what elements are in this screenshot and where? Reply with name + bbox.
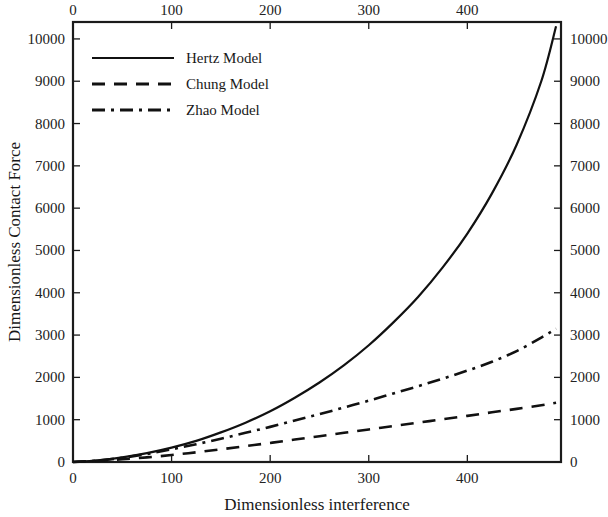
y-tick-label-right: 8000 xyxy=(570,116,600,132)
line-chart: 0100200300400010020030040001000200030004… xyxy=(0,0,608,517)
y-axis-title: Dimensionless Contact Force xyxy=(5,142,24,342)
chart-figure: 0100200300400010020030040001000200030004… xyxy=(0,0,608,517)
y-tick-label-left: 9000 xyxy=(35,73,65,89)
y-tick-label-right: 2000 xyxy=(570,369,600,385)
x-tick-label-bottom: 0 xyxy=(69,470,77,486)
x-tick-label-bottom: 400 xyxy=(456,470,479,486)
y-tick-label-left: 2000 xyxy=(35,369,65,385)
y-tick-label-left: 3000 xyxy=(35,327,65,343)
y-tick-label-left: 8000 xyxy=(35,116,65,132)
legend-label-chung-model: Chung Model xyxy=(186,76,269,92)
y-tick-label-left: 1000 xyxy=(35,412,65,428)
legend-label-zhao-model: Zhao Model xyxy=(186,102,260,118)
y-tick-label-right: 9000 xyxy=(570,73,600,89)
x-tick-label-bottom: 300 xyxy=(358,470,381,486)
plot-frame xyxy=(73,22,561,462)
x-tick-label-top: 400 xyxy=(456,2,479,18)
legend-label-hertz-model: Hertz Model xyxy=(186,50,262,66)
y-tick-label-right: 3000 xyxy=(570,327,600,343)
y-tick-label-right: 0 xyxy=(570,454,578,470)
y-tick-label-left: 0 xyxy=(58,454,66,470)
y-tick-label-right: 1000 xyxy=(570,412,600,428)
x-tick-label-top: 200 xyxy=(259,2,282,18)
y-tick-label-right: 5000 xyxy=(570,242,600,258)
y-tick-label-right: 4000 xyxy=(570,285,600,301)
y-tick-label-right: 6000 xyxy=(570,200,600,216)
x-tick-label-bottom: 200 xyxy=(259,470,282,486)
y-tick-label-left: 10000 xyxy=(28,31,66,47)
x-tick-label-top: 300 xyxy=(358,2,381,18)
x-tick-label-top: 100 xyxy=(160,2,183,18)
y-tick-label-right: 10000 xyxy=(570,31,608,47)
y-tick-label-left: 4000 xyxy=(35,285,65,301)
y-tick-label-left: 6000 xyxy=(35,200,65,216)
y-tick-label-left: 7000 xyxy=(35,158,65,174)
y-tick-label-right: 7000 xyxy=(570,158,600,174)
x-tick-label-bottom: 100 xyxy=(160,470,183,486)
x-axis-title: Dimensionless interference xyxy=(224,495,410,514)
y-tick-label-left: 5000 xyxy=(35,242,65,258)
x-tick-label-top: 0 xyxy=(69,2,77,18)
